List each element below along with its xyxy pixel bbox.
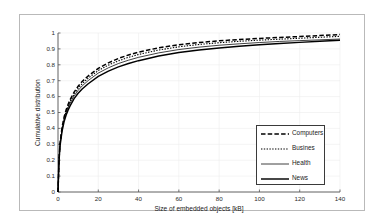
x-tick-label: 120 [290,196,310,202]
legend-line-sample [260,129,290,139]
legend-line-sample [260,174,290,184]
legend-item-health[interactable]: Health [257,156,326,171]
y-tick-label: 0.2 [39,157,55,163]
legend-item-news[interactable]: News [257,171,326,186]
legend-label: Health [292,160,310,166]
chart-plot-area [0,0,380,223]
x-tick-label: 20 [88,196,108,202]
legend-item-computers[interactable]: Computers [257,126,326,141]
y-tick-label: 0.8 [39,62,55,68]
legend-label: Busines [292,145,315,151]
x-tick-label: 40 [129,196,149,202]
x-tick-label: 100 [249,196,269,202]
x-tick-label: 60 [169,196,189,202]
legend-line-sample [260,144,290,154]
y-tick-label: 0.9 [39,46,55,52]
figure-canvas: 00.10.20.30.40.50.60.70.80.91 0204060801… [0,0,380,223]
y-tick-label: 0.3 [39,141,55,147]
y-tick-label: 0.6 [39,93,55,99]
y-tick-label: 0.1 [39,173,55,179]
x-tick-label: 0 [48,196,68,202]
legend-label: Computers [292,130,323,136]
chart-legend: ComputersBusinesHealthNews [256,125,325,185]
legend-label: News [292,175,308,181]
y-tick-label: 0.5 [39,109,55,115]
x-tick-label: 140 [330,196,350,202]
y-tick-label: 0.7 [39,78,55,84]
y-axis-title: Cumulative distribution [34,79,41,146]
y-tick-label: 0 [39,189,55,195]
legend-line-sample [260,159,290,169]
x-tick-label: 80 [209,196,229,202]
x-axis-title: Size of embedded objects [kB] [58,205,340,212]
y-tick-label: 1 [39,30,55,36]
legend-item-busines[interactable]: Busines [257,141,326,156]
y-tick-label: 0.4 [39,125,55,131]
